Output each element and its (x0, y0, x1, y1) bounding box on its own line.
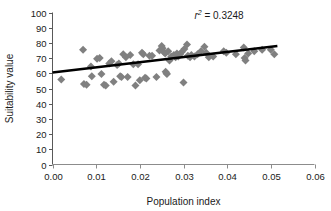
data-point-marker (124, 73, 132, 81)
scatter-series (57, 40, 278, 89)
y-axis-tick-label: 60 (36, 68, 47, 79)
r-value: = 0.3248 (202, 10, 244, 21)
x-axis-tick-label: 0.00 (44, 171, 63, 182)
chart-figure: 01020304050607080901000.000.010.020.030.… (0, 0, 331, 211)
x-axis-tick-label: 0.04 (218, 171, 237, 182)
y-axis-tick-label: 90 (36, 23, 47, 34)
y-axis-tick-label: 50 (36, 84, 47, 95)
x-axis-tick-label: 0.05 (262, 171, 281, 182)
x-axis-title: Population index (147, 196, 221, 207)
x-axis-tick-label: 0.03 (175, 171, 194, 182)
y-axis-tick-label: 70 (36, 53, 47, 64)
data-point-marker (97, 70, 105, 78)
x-axis-tick-label: 0.02 (131, 171, 150, 182)
y-axis-tick-label: 100 (31, 8, 47, 19)
y-axis-tick-label: 80 (36, 38, 47, 49)
scatter-plot-canvas: 01020304050607080901000.000.010.020.030.… (0, 0, 331, 211)
y-axis-tick-label: 40 (36, 99, 47, 110)
y-axis-tick-label: 20 (36, 129, 47, 140)
y-axis-tick-label: 30 (36, 114, 47, 125)
data-point-marker (110, 78, 118, 86)
y-axis-tick-label: 10 (36, 144, 47, 155)
y-axis-tick-label: 0 (41, 160, 46, 171)
data-point-marker (180, 78, 188, 86)
r-squared-label: r2 = 0.3248 (194, 9, 244, 20)
data-point-marker (88, 72, 96, 80)
x-axis-tick-label: 0.06 (306, 171, 325, 182)
data-point-marker (57, 75, 65, 83)
data-point-marker (131, 81, 139, 89)
y-axis-title: Suitability value (4, 53, 15, 123)
data-point-marker (79, 46, 87, 54)
data-point-marker (152, 73, 160, 81)
x-axis-tick-label: 0.01 (87, 171, 106, 182)
